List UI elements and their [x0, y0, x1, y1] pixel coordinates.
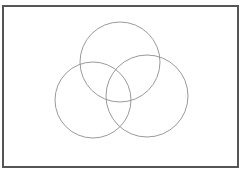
venn-circle-right [106, 55, 188, 137]
diagram-frame [3, 6, 238, 167]
venn-diagram [0, 0, 246, 173]
